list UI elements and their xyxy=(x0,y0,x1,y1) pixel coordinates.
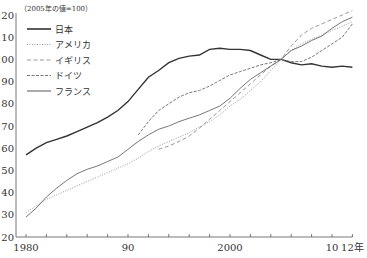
y-tick-label: 100 xyxy=(0,54,14,65)
legend-label: ドイツ xyxy=(55,71,82,81)
series-line-3 xyxy=(138,24,352,135)
legend: 日本アメリカイギリスドイツフランス xyxy=(27,24,91,97)
y-tick-label: 80 xyxy=(1,98,14,109)
unit-note: （2005年の値=100） xyxy=(20,4,92,13)
y-tick-label: 120 xyxy=(0,10,14,21)
legend-label: イギリス xyxy=(55,56,91,66)
y-tick-label: 20 xyxy=(1,232,14,243)
line-chart: （2005年の値=100） 20304050607080901001101201… xyxy=(0,0,367,258)
y-tick-label: 30 xyxy=(1,209,14,220)
x-tick-label: 2000 xyxy=(217,242,242,253)
y-tick-label: 110 xyxy=(0,32,14,43)
x-tick-label: 1980 xyxy=(13,242,38,253)
x-tick-label: 90 xyxy=(122,242,135,253)
legend-label: フランス xyxy=(55,87,91,97)
x-tick-label: 10 xyxy=(326,242,339,253)
y-tick-label: 50 xyxy=(1,165,14,176)
legend-label: 日本 xyxy=(55,24,73,35)
legend-label: アメリカ xyxy=(55,40,91,50)
y-tick-label: 70 xyxy=(1,121,14,132)
x-tick-label: 12年 xyxy=(341,241,364,253)
y-tick-label: 90 xyxy=(1,76,14,87)
y-tick-label: 60 xyxy=(1,143,14,154)
y-tick-label: 40 xyxy=(1,187,14,198)
series-line-1 xyxy=(26,22,352,213)
series-line-2 xyxy=(159,11,353,150)
